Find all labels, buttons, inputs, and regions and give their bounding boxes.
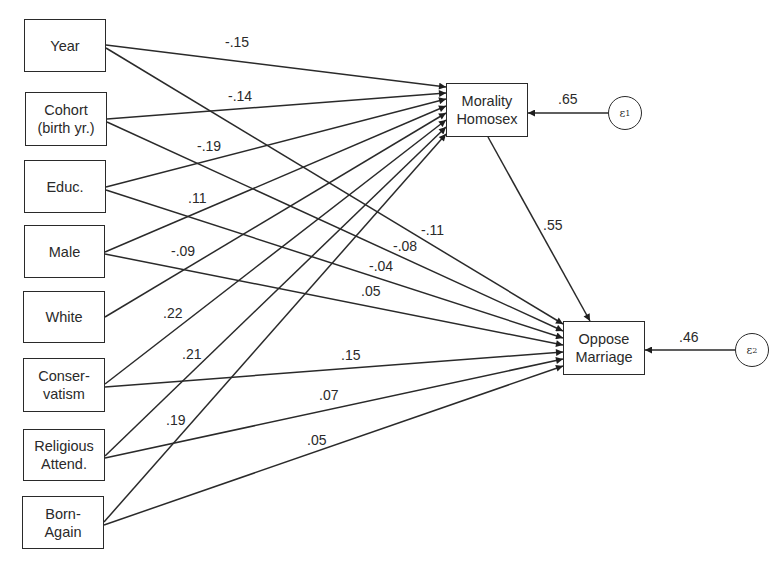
path-arrows-layer (0, 0, 783, 570)
path-conservatism-oppose (105, 352, 563, 387)
node-year: Year (24, 19, 106, 72)
node-oppose: Oppose Marriage (563, 321, 645, 375)
path-religious-morality (105, 127, 446, 456)
coef-bornagain-oppose: .05 (307, 432, 326, 448)
coef-educ-morality: -.19 (197, 138, 221, 154)
node-bornagain: Born- Again (22, 496, 104, 549)
coef-year-oppose: -.11 (421, 222, 444, 238)
coef-male-morality: .11 (188, 190, 206, 206)
error-e1-sub: 1 (625, 109, 630, 118)
coef-conservatism-oppose: .15 (341, 347, 360, 363)
path-religious-oppose (105, 359, 563, 458)
coef-educ-oppose: -.04 (369, 258, 393, 274)
node-cohort: Cohort (birth yr.) (25, 92, 107, 146)
node-male: Male (24, 225, 105, 278)
node-white: White (23, 291, 105, 343)
node-oppose-label: Oppose Marriage (575, 330, 632, 366)
node-morality: Morality Homosex (446, 83, 528, 137)
node-religious-label: Religious Attend. (34, 437, 94, 473)
coef-male-oppose: .05 (361, 283, 380, 299)
node-morality-label: Morality Homosex (456, 92, 517, 128)
node-conservatism: Conser- vatism (23, 358, 105, 412)
coef-cohort-morality: -.14 (228, 88, 252, 104)
coef-year-morality: -.15 (225, 34, 249, 50)
coef-e2-oppose: .46 (679, 329, 698, 345)
path-male-morality (105, 106, 446, 252)
coef-conservatism-morality: .22 (163, 305, 182, 321)
coef-religious-morality: .21 (182, 346, 201, 362)
path-bornagain-morality (104, 134, 446, 522)
coef-e1-morality: .65 (558, 91, 577, 107)
error-e2-sub: 2 (752, 346, 757, 355)
coef-morality-oppose: .55 (543, 217, 562, 233)
coef-religious-oppose: .07 (319, 387, 338, 403)
coef-white-morality: -.09 (171, 243, 195, 259)
node-male-label: Male (49, 243, 80, 261)
path-morality-oppose (488, 137, 590, 321)
node-bornagain-label: Born- Again (44, 505, 81, 541)
error-e1: ε1 (608, 96, 642, 130)
node-year-label: Year (50, 37, 79, 55)
node-cohort-label: Cohort (birth yr.) (37, 101, 94, 137)
path-year-morality (106, 45, 446, 87)
coef-bornagain-morality: .19 (166, 412, 185, 428)
node-educ-label: Educ. (46, 178, 83, 196)
coef-cohort-oppose: -.08 (393, 238, 417, 254)
node-educ: Educ. (24, 160, 106, 213)
node-white-label: White (45, 308, 82, 326)
node-religious: Religious Attend. (23, 429, 105, 481)
node-conservatism-label: Conser- vatism (38, 367, 90, 403)
error-e2: ε2 (735, 333, 769, 367)
path-cohort-morality (107, 93, 446, 119)
